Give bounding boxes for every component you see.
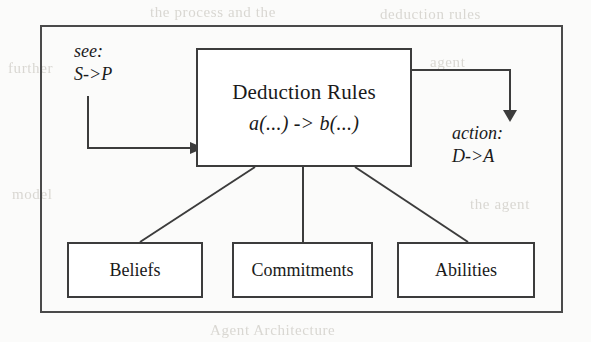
label-action: action: D->A [452, 122, 503, 168]
node-commitments-label: Commitments [251, 260, 353, 281]
label-see-name: see: [74, 40, 112, 63]
label-action-mapping: D->A [452, 145, 503, 168]
figure-canvas: the process and the deduction rules furt… [0, 0, 591, 342]
node-abilities-label: Abilities [435, 260, 497, 281]
node-abilities: Abilities [397, 242, 535, 298]
ghost-text-line-1: the process and the [150, 4, 276, 21]
node-deduction-rules-title: Deduction Rules [232, 79, 376, 107]
node-deduction-rules-formula: a(...) -> b(...) [249, 110, 359, 136]
node-beliefs: Beliefs [67, 242, 203, 298]
ghost-text-line-2: deduction rules [380, 6, 481, 23]
label-see: see: S->P [74, 40, 112, 86]
node-beliefs-label: Beliefs [110, 260, 161, 281]
label-see-mapping: S->P [74, 63, 112, 86]
node-deduction-rules: Deduction Rules a(...) -> b(...) [196, 48, 412, 167]
ghost-text-line-7: Agent Architecture [210, 322, 335, 339]
node-commitments: Commitments [232, 242, 373, 298]
label-action-name: action: [452, 122, 503, 145]
